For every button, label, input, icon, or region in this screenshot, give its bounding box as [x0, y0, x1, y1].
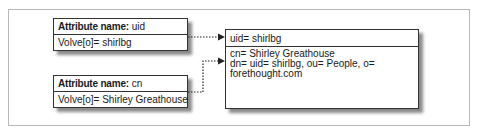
arrow-cn-to-entry: [188, 58, 225, 93]
arrow-uid-to-entry: [188, 34, 225, 41]
connector-arrows: [0, 0, 480, 132]
